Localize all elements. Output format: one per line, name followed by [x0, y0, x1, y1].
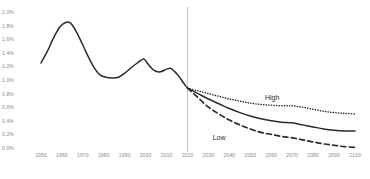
- plot-area: [0, 0, 370, 179]
- series-line-historical: [41, 22, 188, 88]
- series-annotation-low: Low: [213, 134, 226, 141]
- series-annotation-high: High: [265, 94, 279, 101]
- population-growth-rate-chart: 2.0%1.8%1.6%1.4%1.2%1.0%0.8%0.6%0.4%0.2%…: [0, 0, 370, 179]
